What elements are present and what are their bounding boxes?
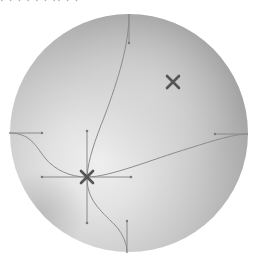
- gradient-mesh-canvas[interactable]: [0, 0, 256, 267]
- handle-knob-right[interactable]: [130, 176, 133, 179]
- bottom-anchor-knob[interactable]: [126, 220, 128, 222]
- top-anchor-knob[interactable]: [128, 42, 130, 44]
- right-anchor-knob[interactable]: [214, 133, 216, 135]
- handle-knob-up[interactable]: [86, 130, 89, 133]
- handle-knob-left[interactable]: [41, 176, 44, 179]
- sphere-lower-shade: [10, 14, 248, 252]
- left-anchor-knob[interactable]: [41, 132, 43, 134]
- handle-knob-down[interactable]: [86, 222, 89, 225]
